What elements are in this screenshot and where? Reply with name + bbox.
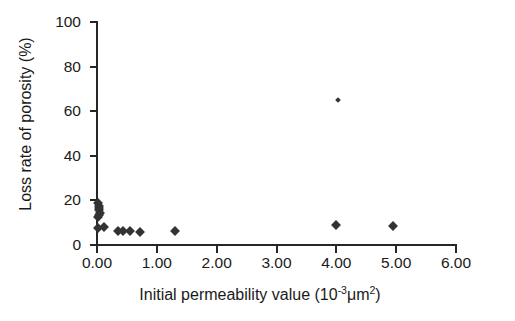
x-axis-tick-label: 2.00 <box>187 255 247 271</box>
x-axis-tick <box>395 246 397 253</box>
x-axis-tick <box>455 246 457 253</box>
x-axis-title-unit: μm <box>347 286 370 303</box>
data-point <box>125 226 135 236</box>
y-axis-tick <box>90 66 97 68</box>
data-point <box>331 220 341 230</box>
y-axis-tick-label: 40 <box>45 148 81 164</box>
y-axis-tick-label: 20 <box>45 192 81 208</box>
y-axis-tick-label: 60 <box>45 103 81 119</box>
y-axis-tick <box>90 110 97 112</box>
x-axis-tick-label: 0.00 <box>67 255 127 271</box>
x-axis-title-prefix: Initial permeability value (10 <box>139 286 337 303</box>
data-point <box>335 97 341 103</box>
y-axis-tick-label: 0 <box>45 237 81 253</box>
data-point <box>388 221 398 231</box>
x-axis-tick <box>276 246 278 253</box>
x-axis-title: Initial permeability value (10-3μm2) <box>60 286 460 304</box>
data-point <box>99 222 109 232</box>
x-axis-title-exponent: -3 <box>338 284 347 296</box>
x-axis-tick-label: 5.00 <box>366 255 426 271</box>
x-axis-tick <box>216 246 218 253</box>
x-axis-tick <box>335 246 337 253</box>
x-axis-tick <box>96 246 98 253</box>
y-axis-tick <box>90 155 97 157</box>
x-axis-title-suffix: ) <box>375 286 380 303</box>
x-axis-tick-label: 1.00 <box>127 255 187 271</box>
y-axis-title: Loss rate of porosity (%) <box>17 14 35 234</box>
x-axis-tick <box>156 246 158 253</box>
scatter-chart-figure: 100 80 60 40 20 0 0.00 1.00 2.00 3.00 4.… <box>0 0 515 321</box>
x-axis-tick-label: 6.00 <box>426 255 486 271</box>
x-axis-tick-label: 4.00 <box>306 255 366 271</box>
y-axis-tick <box>90 21 97 23</box>
y-axis-tick-label: 80 <box>45 59 81 75</box>
y-axis-tick-label: 100 <box>45 14 81 30</box>
plot-area <box>97 22 456 245</box>
data-point <box>135 227 145 237</box>
x-axis-tick-label: 3.00 <box>247 255 307 271</box>
data-point <box>170 226 180 236</box>
